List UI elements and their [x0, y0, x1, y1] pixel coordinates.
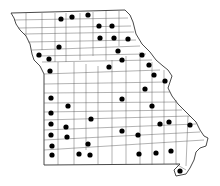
county-occurrence-dot: [162, 78, 167, 83]
county-occurrence-dot: [69, 14, 74, 19]
county-occurrence-dot: [177, 168, 182, 173]
county-occurrence-dot: [119, 128, 124, 133]
county-occurrence-dot: [47, 68, 52, 73]
county-occurrence-dot: [166, 119, 171, 124]
county-occurrence-dot: [85, 141, 90, 146]
state-outline: [11, 10, 208, 176]
county-occurrence-dot: [119, 57, 124, 62]
county-occurrence-dot: [49, 152, 54, 157]
county-occurrence-dot: [109, 23, 114, 28]
county-occurrence-dot: [151, 72, 156, 77]
county-occurrence-dot: [87, 152, 92, 157]
county-occurrence-dot: [48, 121, 53, 126]
county-occurrence-dot: [97, 35, 102, 40]
county-occurrence-dot: [76, 151, 81, 156]
county-occurrence-dot: [36, 52, 41, 57]
county-occurrence-dot: [149, 103, 154, 108]
county-occurrence-dot: [136, 151, 141, 156]
county-occurrence-dot: [56, 44, 61, 49]
county-occurrence-dot: [111, 35, 116, 40]
county-occurrence-dot: [49, 143, 54, 148]
county-occurrence-dot: [48, 95, 53, 100]
county-occurrence-dot: [187, 122, 192, 127]
county-occurrence-dot: [135, 132, 140, 137]
county-occurrence-dot: [58, 16, 63, 21]
county-occurrence-dot: [85, 12, 90, 17]
county-occurrence-dot: [96, 23, 101, 28]
county-occurrence-dot: [142, 86, 147, 91]
county-occurrence-dot: [115, 48, 120, 53]
county-occurrence-dot: [48, 110, 53, 115]
county-occurrence-dot: [157, 121, 162, 126]
county-occurrence-dot: [64, 134, 69, 139]
county-occurrence-dot: [153, 150, 158, 155]
county-occurrence-dot: [106, 64, 111, 69]
county-occurrence-dot: [168, 148, 173, 153]
county-occurrence-dot: [146, 62, 151, 67]
county-occurrence-dot: [46, 56, 51, 61]
missouri-county-map: [0, 0, 220, 186]
county-occurrence-dot: [88, 116, 93, 121]
county-occurrence-dot: [63, 124, 68, 129]
county-occurrence-dot: [65, 103, 70, 108]
county-occurrence-dot: [48, 132, 53, 137]
county-occurrence-dot: [125, 36, 130, 41]
county-occurrence-dot: [139, 52, 144, 57]
county-occurrence-dot: [119, 96, 124, 101]
